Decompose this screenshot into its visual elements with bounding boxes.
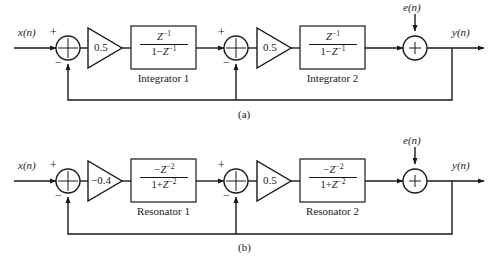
block-b2-denominator-exp: −2 [338,176,346,185]
block-b1-numerator-exp: −2 [166,162,174,171]
block-a2-numerator-exp: −1 [332,29,340,38]
sum-a2-minus-sign: − [223,56,230,68]
sum-a1-minus-sign: − [55,56,62,68]
block-a1-denominator-exp: −1 [169,43,177,52]
gain-a2-label: 0.5 [263,42,277,53]
block-b1-transfer-function: −Z−2 1+Z−2 [140,164,188,191]
panel-b-caption: (b) [238,242,251,253]
panel-b-input-label: x(n) [18,160,36,171]
diagram-canvas [0,0,500,265]
block-a2-denominator-lead: 1− [321,46,332,57]
sum-b3 [403,169,427,193]
gain-b2-label: 0.5 [263,175,277,186]
gain-a1-label: 0.5 [94,42,108,53]
sum-b1-minus-sign: − [55,189,62,201]
panel-a-output-label: y(n) [452,27,470,38]
figure-block-diagram: x(n) + − 0.5 Z−1 1−Z−1 Integrator 1 + − … [0,0,500,265]
panel-a-input-label: x(n) [18,27,36,38]
gain-b1-label: −0.4 [91,175,111,186]
block-a1-name: Integrator 1 [131,73,196,84]
block-a1-transfer-function: Z−1 1−Z−1 [140,31,188,58]
sum-a1-plus-sign: + [50,26,57,38]
block-b2-transfer-function: −Z−2 1+Z−2 [309,164,357,191]
sum-a3 [403,36,427,60]
panel-a-noise-label: e(n) [403,2,421,13]
block-b2-denominator-lead: 1+ [321,179,332,190]
panel-a-caption: (a) [238,109,250,120]
sum-b2-plus-sign: + [218,159,225,171]
panel-b-output-label: y(n) [452,160,470,171]
block-b2-numerator-exp: −2 [335,162,343,171]
block-a2-denominator-exp: −1 [338,43,346,52]
panel-b-noise-label: e(n) [403,135,421,146]
block-b1-numerator-var: −Z [154,164,167,175]
block-a2-name: Integrator 2 [300,73,365,84]
block-b1-name: Resonator 1 [131,206,196,217]
block-a2-transfer-function: Z−1 1−Z−1 [309,31,357,58]
sum-b2-minus-sign: − [223,189,230,201]
block-b2-name: Resonator 2 [300,206,365,217]
block-a1-numerator-exp: −1 [163,29,171,38]
block-b2-numerator-var: −Z [323,164,336,175]
block-a1-denominator-lead: 1− [152,46,163,57]
sum-a2-plus-sign: + [218,26,225,38]
block-b1-denominator-exp: −2 [169,176,177,185]
sum-b1-plus-sign: + [50,159,57,171]
block-b1-denominator-lead: 1+ [152,179,163,190]
